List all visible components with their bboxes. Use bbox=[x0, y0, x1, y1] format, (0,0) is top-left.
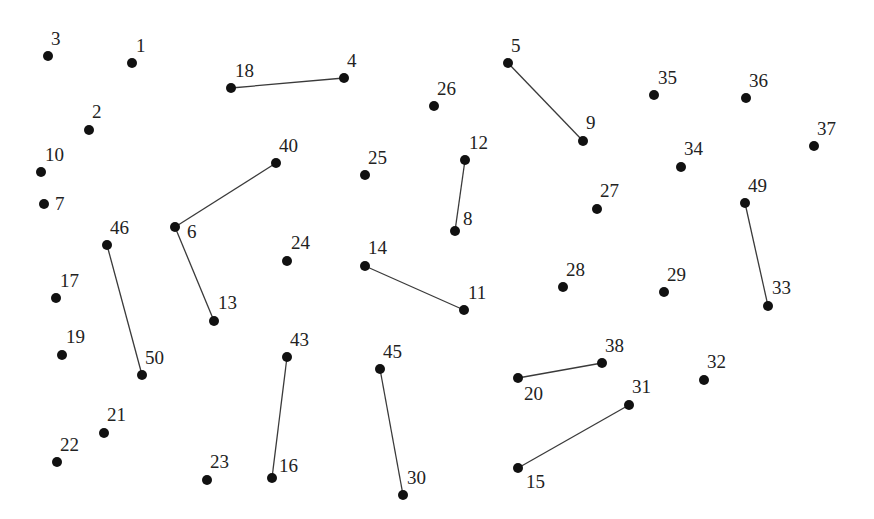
dot-33 bbox=[763, 301, 773, 311]
dot-label-8: 8 bbox=[463, 208, 473, 229]
edge-14-11 bbox=[365, 266, 464, 310]
dot-32 bbox=[699, 375, 709, 385]
dot-label-30: 30 bbox=[407, 467, 426, 488]
dot-17 bbox=[51, 293, 61, 303]
dot-label-13: 13 bbox=[218, 292, 237, 313]
dot-6 bbox=[170, 222, 180, 232]
dot-22 bbox=[52, 457, 62, 467]
dot-label-38: 38 bbox=[605, 335, 624, 356]
dot-1 bbox=[127, 58, 137, 68]
dot-label-23: 23 bbox=[210, 451, 229, 472]
dot-label-9: 9 bbox=[586, 112, 596, 133]
dot-50 bbox=[137, 370, 147, 380]
dot-27 bbox=[592, 204, 602, 214]
dot-11 bbox=[459, 305, 469, 315]
dot-label-18: 18 bbox=[235, 60, 254, 81]
dot-8 bbox=[450, 226, 460, 236]
dot-18 bbox=[226, 83, 236, 93]
dot-label-29: 29 bbox=[667, 264, 686, 285]
dot-label-12: 12 bbox=[469, 132, 488, 153]
dot-label-33: 33 bbox=[772, 277, 791, 298]
dot-30 bbox=[398, 490, 408, 500]
dot-label-14: 14 bbox=[368, 237, 388, 258]
dot-label-17: 17 bbox=[60, 270, 79, 291]
edge-15-31 bbox=[518, 405, 629, 468]
dot-23 bbox=[202, 475, 212, 485]
dot-26 bbox=[429, 101, 439, 111]
dot-label-21: 21 bbox=[107, 404, 126, 425]
dot-24 bbox=[282, 256, 292, 266]
dot-label-46: 46 bbox=[110, 217, 129, 238]
dot-16 bbox=[267, 473, 277, 483]
dot-4 bbox=[339, 73, 349, 83]
dot-label-11: 11 bbox=[468, 282, 486, 303]
dot-15 bbox=[513, 463, 523, 473]
dot-label-27: 27 bbox=[600, 180, 619, 201]
dot-36 bbox=[741, 93, 751, 103]
dot-46 bbox=[102, 240, 112, 250]
dot-28 bbox=[558, 282, 568, 292]
dot-label-5: 5 bbox=[511, 35, 521, 56]
dot-label-26: 26 bbox=[437, 78, 456, 99]
dot-label-1: 1 bbox=[136, 35, 146, 56]
dot-9 bbox=[578, 136, 588, 146]
dot-label-34: 34 bbox=[684, 138, 704, 159]
dot-25 bbox=[360, 170, 370, 180]
dot-label-36: 36 bbox=[749, 70, 768, 91]
edge-5-9 bbox=[508, 63, 583, 141]
dot-label-22: 22 bbox=[60, 434, 79, 455]
dot-label-43: 43 bbox=[290, 329, 309, 350]
dot-label-49: 49 bbox=[748, 175, 767, 196]
dot-label-20: 20 bbox=[524, 383, 543, 404]
dot-14 bbox=[360, 261, 370, 271]
points-layer bbox=[36, 51, 819, 500]
dot-5 bbox=[503, 58, 513, 68]
dot-49 bbox=[740, 198, 750, 208]
dot-19 bbox=[57, 350, 67, 360]
dot-37 bbox=[809, 141, 819, 151]
dot-label-40: 40 bbox=[279, 135, 298, 156]
edge-45-30 bbox=[380, 369, 403, 495]
dot-38 bbox=[597, 358, 607, 368]
dot-label-45: 45 bbox=[383, 341, 402, 362]
dot-label-10: 10 bbox=[45, 144, 64, 165]
dot-10 bbox=[36, 167, 46, 177]
dot-label-19: 19 bbox=[66, 326, 85, 347]
dot-label-50: 50 bbox=[145, 347, 164, 368]
edge-46-50 bbox=[107, 245, 142, 375]
dot-label-37: 37 bbox=[817, 118, 836, 139]
dot-label-6: 6 bbox=[187, 221, 197, 242]
dot-label-31: 31 bbox=[632, 376, 651, 397]
edge-49-33 bbox=[745, 203, 768, 306]
dot-label-7: 7 bbox=[55, 193, 65, 214]
dot-13 bbox=[209, 316, 219, 326]
dot-34 bbox=[676, 162, 686, 172]
dot-12 bbox=[460, 155, 470, 165]
dot-45 bbox=[375, 364, 385, 374]
dot-label-25: 25 bbox=[368, 147, 387, 168]
dot-label-4: 4 bbox=[347, 50, 357, 71]
dot-label-28: 28 bbox=[566, 259, 585, 280]
dot-3 bbox=[43, 51, 53, 61]
dot-2 bbox=[84, 125, 94, 135]
dot-label-3: 3 bbox=[51, 28, 61, 49]
dot-40 bbox=[271, 158, 281, 168]
dot-31 bbox=[624, 400, 634, 410]
dot-diagram-canvas: 1234567891011121314151617181920212223242… bbox=[0, 0, 874, 519]
dot-label-15: 15 bbox=[526, 471, 545, 492]
labels-layer: 1234567891011121314151617181920212223242… bbox=[45, 28, 836, 492]
dot-label-35: 35 bbox=[658, 67, 677, 88]
dot-20 bbox=[513, 373, 523, 383]
dot-label-24: 24 bbox=[291, 232, 311, 253]
dot-43 bbox=[282, 352, 292, 362]
dot-35 bbox=[649, 90, 659, 100]
dot-29 bbox=[659, 287, 669, 297]
edge-20-38 bbox=[518, 363, 602, 378]
dot-label-2: 2 bbox=[92, 101, 102, 122]
dot-21 bbox=[99, 428, 109, 438]
dot-label-32: 32 bbox=[707, 351, 726, 372]
edge-40-6 bbox=[175, 163, 276, 227]
dot-7 bbox=[39, 199, 49, 209]
dot-label-16: 16 bbox=[279, 455, 298, 476]
